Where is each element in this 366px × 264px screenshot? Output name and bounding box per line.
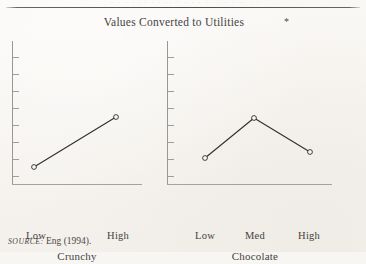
series-crunchy <box>12 41 142 185</box>
data-point-marker <box>114 115 119 120</box>
footnote-asterisk-icon: * <box>284 15 289 29</box>
series-line-crunchy <box>34 117 116 167</box>
series-line-chocolate <box>205 118 310 158</box>
plot-area-crunchy <box>12 41 142 185</box>
data-point-marker <box>32 165 37 170</box>
data-point-marker <box>203 156 208 161</box>
x-tick-label: High <box>298 229 320 243</box>
chart-panel-crunchy: Low High Crunchy <box>12 41 142 185</box>
x-tick-label: Low <box>195 229 215 243</box>
source-citation: Eng (1994). <box>46 236 91 246</box>
chart-panel-chocolate: Low Med High Chocolate <box>167 41 332 185</box>
source-label: Source: <box>8 237 44 246</box>
series-chocolate <box>167 41 332 185</box>
bleedthrough-text: · · · · ·· · · ·· · · · · · ·· · · ·· · … <box>36 0 336 7</box>
figure-title: Values Converted to Utilities <box>0 14 357 30</box>
axis-title-chocolate: Chocolate <box>232 249 278 264</box>
x-tick-label: Med <box>245 229 265 243</box>
plot-area-chocolate <box>167 41 332 185</box>
top-horizontal-rule <box>6 7 360 8</box>
x-tick-label: High <box>107 229 129 243</box>
data-point-marker <box>308 150 313 155</box>
source-line: Source: Eng (1994). <box>8 235 91 248</box>
axis-title-crunchy: Crunchy <box>57 249 96 264</box>
data-point-marker <box>252 116 257 121</box>
figure-title-row: Values Converted to Utilities * <box>0 14 366 30</box>
